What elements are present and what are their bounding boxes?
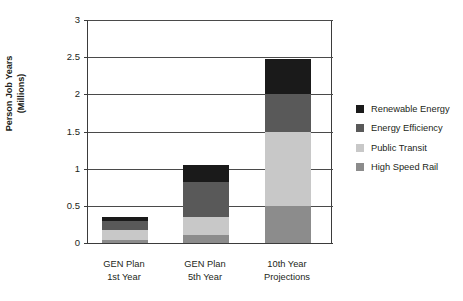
legend-item: High Speed Rail xyxy=(356,158,463,178)
y-tick-mark-1 xyxy=(84,169,88,170)
bar-stack xyxy=(183,165,229,243)
legend-label: Renewable Energy xyxy=(371,104,450,114)
y-axis-title-line-1: Person Job Years xyxy=(4,29,16,159)
y-tick-mark-2 xyxy=(84,94,88,95)
y-axis-title: Person Job Years (Millions) xyxy=(4,29,27,159)
bar-segment xyxy=(102,221,148,230)
y-tick-mark-3 xyxy=(84,20,88,21)
y-tick-mark-1.5 xyxy=(84,132,88,133)
legend-label: Energy Efficiency xyxy=(371,123,443,133)
gridline-2.5 xyxy=(88,57,333,58)
y-tick-label-0.5: 0.5 xyxy=(40,201,80,211)
legend-item: Renewable Energy xyxy=(356,99,463,119)
bar-segment xyxy=(265,94,311,131)
chart-legend: Renewable EnergyEnergy EfficiencyPublic … xyxy=(356,99,463,177)
y-tick-mark-2.5 xyxy=(84,57,88,58)
bar-segment xyxy=(102,240,148,243)
legend-swatch-icon xyxy=(356,105,364,113)
legend-label: Public Transit xyxy=(371,143,427,153)
legend-swatch-icon xyxy=(356,144,364,152)
legend-item: Public Transit xyxy=(356,138,463,158)
bar-segment xyxy=(265,132,311,206)
plot-area xyxy=(87,20,332,243)
bar-segment xyxy=(102,230,148,240)
gridline-3 xyxy=(88,20,333,21)
bar-stack xyxy=(265,59,311,243)
stacked-bar-chart: Person Job Years (Millions) 00.511.522.5… xyxy=(0,0,463,301)
legend-swatch-icon xyxy=(356,163,364,171)
y-tick-mark-0 xyxy=(84,243,88,244)
bar-segment xyxy=(265,59,311,94)
legend-label: High Speed Rail xyxy=(371,162,438,172)
y-axis-title-line-2: (Millions) xyxy=(15,29,27,159)
x-axis-label: 10th YearProjections xyxy=(232,258,342,283)
bar-segment xyxy=(183,217,229,235)
y-tick-mark-0.5 xyxy=(84,206,88,207)
bar-segment xyxy=(183,182,229,217)
y-tick-label-2: 2 xyxy=(40,89,80,99)
bar-segment xyxy=(183,235,229,243)
y-tick-label-3: 3 xyxy=(40,15,80,25)
y-tick-label-0: 0 xyxy=(40,238,80,248)
legend-swatch-icon xyxy=(356,124,364,132)
gridline-0 xyxy=(88,243,333,244)
y-tick-label-2.5: 2.5 xyxy=(40,52,80,62)
bar-stack xyxy=(102,217,148,243)
bar-segment xyxy=(265,206,311,243)
x-axis-label-line: Projections xyxy=(232,271,342,284)
y-tick-label-1: 1 xyxy=(40,164,80,174)
y-tick-label-1.5: 1.5 xyxy=(40,127,80,137)
bar-segment xyxy=(183,165,229,182)
x-axis-label-line: 10th Year xyxy=(232,258,342,271)
legend-item: Energy Efficiency xyxy=(356,119,463,139)
